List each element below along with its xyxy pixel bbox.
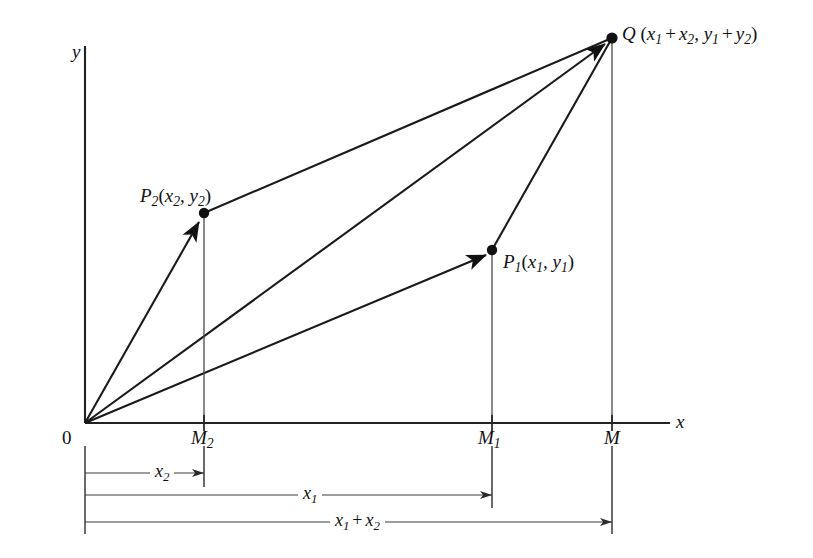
p2-comma: , [180, 185, 190, 206]
dim-sum-sub-2: 2 [373, 518, 379, 533]
point-label-p2: P2(x2, y2) [140, 186, 211, 209]
dim-x2-base: x [155, 461, 163, 481]
dim-x1-sub: 1 [311, 491, 317, 506]
q-open: ( [636, 23, 647, 44]
p2-sub-y: 2 [198, 194, 205, 209]
point-label-p1: P1(x1, y1) [503, 252, 574, 275]
dim-sum-base-1: x [335, 510, 343, 530]
dimension-label-x1: x1 [298, 484, 322, 506]
tick-label-m: M [604, 428, 620, 447]
dim-x1-base: x [303, 483, 311, 503]
q-comma: , [694, 23, 704, 44]
q-plus-1: + [662, 23, 679, 44]
p2-var-y: y [190, 185, 198, 206]
origin-label: 0 [62, 428, 72, 447]
p2-var-x: x [165, 185, 173, 206]
vector-addition-figure: Q (x1+x2, y1+y2) P2(x2, y2) P1(x1, y1) y… [0, 0, 813, 558]
diagram-canvas [0, 0, 813, 558]
p2-close: ) [205, 185, 211, 206]
p1-comma: , [543, 251, 553, 272]
q-plus-2: + [719, 23, 736, 44]
m1-base: M [478, 427, 494, 448]
x-axis-label: x [676, 412, 684, 431]
dim-sum-operator: + [349, 510, 365, 530]
m2-sub: 2 [207, 436, 214, 451]
p1-var-x: x [528, 251, 536, 272]
m-base: M [604, 427, 620, 448]
q-var-y1: y [704, 23, 712, 44]
vector-origin-to-p1 [85, 255, 486, 423]
point-dot-p2 [199, 208, 209, 218]
tick-label-m1: M1 [478, 428, 501, 451]
p2-base: P [140, 185, 152, 206]
m1-sub: 1 [494, 436, 501, 451]
p1-base: P [503, 251, 515, 272]
vector-origin-to-q [85, 44, 605, 423]
point-dot-p1 [487, 245, 497, 255]
vector-origin-to-p2 [85, 222, 199, 423]
q-sub-y2: 2 [744, 32, 751, 47]
q-var-x1: x [647, 23, 655, 44]
tick-label-m2: M2 [191, 428, 214, 451]
q-base: Q [622, 23, 636, 44]
segment-p1-to-q [492, 38, 612, 250]
p1-close: ) [568, 251, 574, 272]
dim-x2-sub: 2 [163, 469, 169, 484]
q-sub-y1: 1 [712, 32, 719, 47]
p1-sub-y: 1 [561, 260, 568, 275]
p1-var-y: y [553, 251, 561, 272]
point-label-q: Q (x1+x2, y1+y2) [622, 24, 757, 47]
point-dot-q [606, 32, 617, 43]
dimension-label-x1-plus-x2: x1+x2 [330, 511, 385, 533]
m2-base: M [191, 427, 207, 448]
q-var-y2: y [736, 23, 744, 44]
dimension-label-x2: x2 [150, 462, 174, 484]
y-axis-label: y [72, 42, 80, 61]
q-close: ) [751, 23, 757, 44]
